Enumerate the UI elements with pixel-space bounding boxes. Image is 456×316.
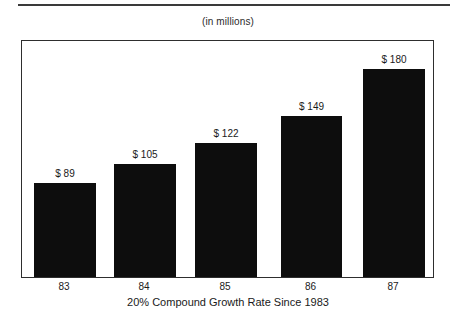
x-axis-tick-label: 83 xyxy=(33,281,95,292)
bar-value-label: $ 180 xyxy=(363,54,425,65)
bar-group[interactable]: $ 149 xyxy=(281,41,342,277)
top-divider-rule xyxy=(18,4,450,6)
bar[interactable] xyxy=(281,116,342,277)
x-axis-tick-label: 84 xyxy=(113,281,175,292)
bar[interactable] xyxy=(34,183,96,277)
chart-page: (in millions) $ 89$ 105$ 122$ 149$ 180 8… xyxy=(0,0,456,316)
x-axis-tick-label: 87 xyxy=(362,281,424,292)
bar-value-label: $ 122 xyxy=(195,128,257,139)
bar[interactable] xyxy=(114,164,176,277)
bar-value-label: $ 105 xyxy=(114,149,176,160)
chart-footer-caption: 20% Compound Growth Rate Since 1983 xyxy=(0,296,456,308)
bar[interactable] xyxy=(363,69,425,277)
chart-plot-frame: $ 89$ 105$ 122$ 149$ 180 xyxy=(21,40,434,278)
bar-group[interactable]: $ 89 xyxy=(34,41,96,277)
bar-value-label: $ 149 xyxy=(281,101,342,112)
chart-plot-area: $ 89$ 105$ 122$ 149$ 180 xyxy=(22,41,433,277)
bar[interactable] xyxy=(195,143,257,277)
units-caption: (in millions) xyxy=(0,16,456,27)
x-axis-tick-label: 85 xyxy=(194,281,256,292)
bar-group[interactable]: $ 105 xyxy=(114,41,176,277)
bar-group[interactable]: $ 180 xyxy=(363,41,425,277)
x-axis-tick-label: 86 xyxy=(280,281,341,292)
bar-value-label: $ 89 xyxy=(34,168,96,179)
bar-group[interactable]: $ 122 xyxy=(195,41,257,277)
x-axis-labels: 8384858687 xyxy=(21,281,434,295)
